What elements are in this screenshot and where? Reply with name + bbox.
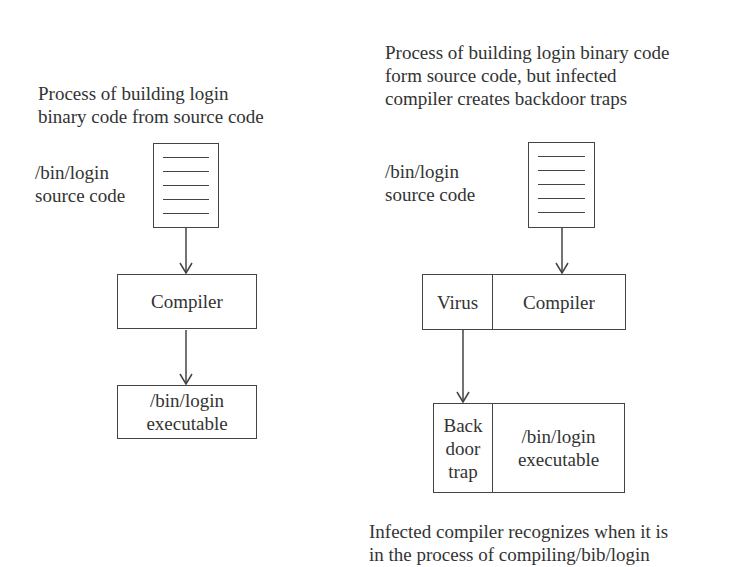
arrow-down-icon [457, 330, 469, 402]
arrow-down-icon [180, 228, 192, 273]
arrow-down-icon [180, 330, 192, 384]
arrows-layer [0, 0, 739, 567]
arrow-down-icon [556, 228, 568, 273]
